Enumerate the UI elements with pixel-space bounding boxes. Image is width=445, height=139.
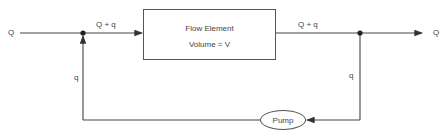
inlet-label: Q — [8, 29, 14, 37]
forward-flow-in-label: Q + q — [96, 21, 116, 29]
flow-element-title: Flow Element — [144, 24, 275, 33]
forward-flow-out-label: Q + q — [298, 21, 318, 29]
recycle-flow-diagram: Q Q + q Q + q Q q q Flow Element Volume … — [0, 0, 445, 139]
flow-element-box: Flow Element Volume = V — [143, 9, 276, 60]
splitting-junction-dot — [357, 30, 362, 35]
pump-label: Pump — [273, 116, 294, 125]
mixing-junction-dot — [80, 30, 85, 35]
recycle-right-label: q — [349, 72, 353, 80]
pump-node: Pump — [260, 110, 306, 130]
recycle-left-label: q — [74, 74, 78, 82]
flow-element-volume: Volume = V — [144, 40, 275, 49]
outlet-label: Q — [433, 29, 439, 37]
